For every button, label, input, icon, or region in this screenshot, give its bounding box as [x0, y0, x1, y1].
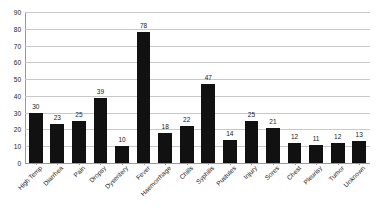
bar-group[interactable]: 10 [111, 12, 133, 163]
x-axis-category-label: Injury [243, 165, 259, 181]
bar-value-label: 39 [97, 89, 104, 96]
bar[interactable] [245, 121, 259, 163]
bar-value-label: 47 [205, 75, 212, 82]
bar-group[interactable]: 21 [262, 12, 284, 163]
bar[interactable] [201, 84, 215, 163]
x-axis-category-label: Chest [286, 165, 303, 182]
x-axis-category-label: Dropsy [89, 165, 108, 184]
bar[interactable] [115, 146, 129, 163]
bar-group[interactable]: 25 [241, 12, 263, 163]
bar-value-label: 21 [269, 119, 276, 126]
bar[interactable] [72, 121, 86, 163]
x-axis-category-label: Pain [73, 165, 87, 179]
y-axis-tick-label: 20 [14, 127, 21, 134]
x-axis-category-label: Unknown [343, 165, 367, 189]
bar-value-label: 14 [226, 131, 233, 138]
bar-value-label: 30 [32, 104, 39, 111]
bar[interactable] [137, 32, 151, 163]
bar[interactable] [158, 133, 172, 163]
bar-value-label: 25 [248, 112, 255, 119]
bar[interactable] [29, 113, 43, 163]
bar-value-label: 11 [313, 136, 320, 143]
bar-group[interactable]: 23 [47, 12, 69, 163]
bar-group[interactable]: 14 [219, 12, 241, 163]
x-axis-category-label: Dysentery [104, 165, 129, 190]
plot-area: 0102030405060708090 30232539107818224714… [25, 12, 370, 163]
y-axis-tick-label: 30 [14, 110, 21, 117]
bars-layer: 30232539107818224714252112111213 [25, 12, 370, 163]
x-axis-category-label: Diarrhea [43, 165, 65, 187]
x-axis-category-label: Fever [135, 165, 151, 181]
bar-group[interactable]: 18 [154, 12, 176, 163]
bar[interactable] [352, 141, 366, 163]
bar-value-label: 25 [75, 112, 82, 119]
x-axis-category-label: Tumor [328, 165, 346, 183]
y-axis-tick-label: 70 [14, 43, 21, 50]
bar-value-label: 78 [140, 23, 147, 30]
bar-group[interactable]: 78 [133, 12, 155, 163]
bar[interactable] [180, 126, 194, 163]
bar-chart: 0102030405060708090 30232539107818224714… [0, 0, 382, 208]
bar-value-label: 13 [356, 132, 363, 139]
bar-value-label: 12 [334, 134, 341, 141]
y-axis-tick-label: 80 [14, 27, 21, 34]
bar[interactable] [223, 140, 237, 163]
x-axis-category-label: Pustules [215, 165, 237, 187]
bar-group[interactable]: 47 [198, 12, 220, 163]
bar-group[interactable]: 11 [305, 12, 327, 163]
x-axis-category-label: Pleurisy [303, 165, 324, 186]
y-axis-tick-label: 40 [14, 94, 21, 101]
bar[interactable] [266, 128, 280, 163]
bar-group[interactable]: 13 [348, 12, 370, 163]
bar-value-label: 12 [291, 134, 298, 141]
bar-group[interactable]: 12 [284, 12, 306, 163]
bar-group[interactable]: 25 [68, 12, 90, 163]
x-axis-category-label: Syphilis [195, 165, 215, 185]
bar-value-label: 22 [183, 117, 190, 124]
bar-group[interactable]: 12 [327, 12, 349, 163]
x-axis-category-label: Sores [264, 165, 281, 182]
y-axis-tick-label: 50 [14, 77, 21, 84]
bar[interactable] [94, 98, 108, 163]
x-axis-category-label: Chills [178, 165, 194, 181]
bar-value-label: 23 [54, 115, 61, 122]
bar[interactable] [50, 124, 64, 163]
x-axis-labels: High TempDiarrheaPainDropsyDysenteryFeve… [25, 165, 370, 208]
bar-group[interactable]: 30 [25, 12, 47, 163]
bar-group[interactable]: 39 [90, 12, 112, 163]
y-axis-tick-label: 10 [14, 144, 21, 151]
y-axis-tick-label: 90 [14, 10, 21, 17]
bar-value-label: 10 [118, 137, 125, 144]
bar-group[interactable]: 22 [176, 12, 198, 163]
bar[interactable] [331, 143, 345, 163]
bar[interactable] [288, 143, 302, 163]
bar[interactable] [309, 145, 323, 163]
y-axis-tick-label: 60 [14, 60, 21, 67]
bar-value-label: 18 [162, 124, 169, 131]
y-axis-tick-label: 0 [17, 161, 21, 168]
x-axis-category-label: High Temp [17, 165, 43, 191]
